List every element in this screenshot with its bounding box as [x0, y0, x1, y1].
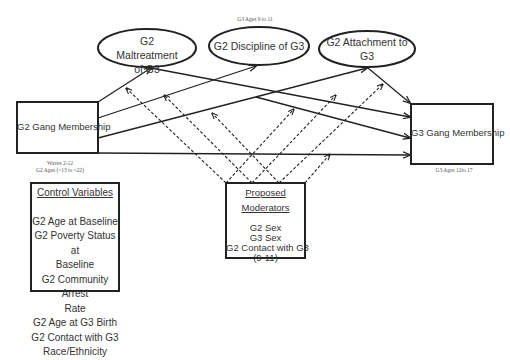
attachment-label: G2 Attachment to G3	[322, 35, 412, 63]
edge-g2gang-attachment	[98, 68, 367, 138]
edge-attachment-g3gang	[368, 68, 410, 103]
moderator-item: (9-11)	[226, 253, 305, 263]
control-variable-item: G2 Age at G3 Birth	[31, 316, 119, 331]
control-variable-item: G2 Poverty Status at	[31, 229, 119, 258]
waves-note: Waves 2-12 G2 Ages (~13 to ~22)	[30, 160, 90, 174]
control-variable-item: G2 Community Arrest	[31, 273, 119, 302]
moderation-attachment	[212, 113, 279, 183]
control-variable-item: Race/Ethnicity	[31, 345, 119, 360]
moderation-maltreatment-g3	[226, 109, 294, 183]
g3-ages-bottom-note: G3 Ages 12to 17	[424, 167, 484, 174]
control-variable-item: Rate	[31, 302, 119, 317]
discipline-label: G2 Discipline of G3	[210, 39, 308, 53]
solid-paths	[98, 66, 410, 155]
moderators-heading-line1: Proposed	[226, 186, 305, 201]
g3-ages-top-note: G3 Ages 9 to 11	[230, 16, 280, 23]
moderation-direct	[305, 154, 330, 183]
moderation-discipline-g3	[252, 95, 336, 183]
control-variables-heading: Control Variables	[31, 186, 119, 201]
moderation-discipline	[164, 95, 252, 183]
control-variables-panel: Control Variables G2 Age at Baseline G2 …	[31, 186, 119, 360]
edge-discipline-g3gang	[256, 97, 410, 138]
moderation-maltreatment	[126, 88, 226, 183]
moderation-attachment-g3	[279, 84, 383, 183]
moderators-heading-line2: Moderators	[226, 201, 305, 216]
edge-maltreatment-g3gang	[151, 68, 410, 117]
control-variable-item: Baseline	[31, 258, 119, 273]
moderators-panel: Proposed Moderators G2 Sex G3 Sex G2 Con…	[226, 186, 305, 263]
g2-gang-membership-label: G2 Gang Membership	[17, 120, 98, 134]
control-variable-item: G2 Age at Baseline	[31, 215, 119, 230]
dashed-paths	[126, 84, 383, 183]
maltreatment-label: G2 Maltreatment of G3	[110, 34, 184, 76]
g3-gang-membership-label: G3 Gang Membership	[411, 126, 493, 140]
control-variable-item: G2 Contact with G3	[31, 331, 119, 346]
